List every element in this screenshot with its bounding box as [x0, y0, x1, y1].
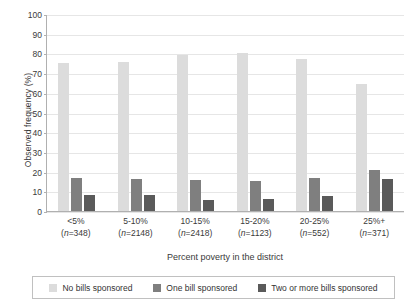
x-axis-title: Percent poverty in the district [46, 252, 404, 262]
x-tick-count: (n=2418) [165, 228, 225, 240]
bar-group [166, 15, 226, 211]
bar [71, 178, 82, 211]
bar [144, 195, 155, 211]
legend-swatch-icon [153, 284, 161, 292]
x-tick-label: 5-10%(n=2148) [106, 216, 166, 239]
x-tick-count: (n=1123) [225, 228, 285, 240]
y-tick-label: 70 [33, 69, 42, 79]
bar [382, 179, 393, 212]
legend-label: Two or more bills sponsored [271, 283, 377, 293]
legend-item[interactable]: Two or more bills sponsored [258, 283, 377, 293]
y-tick-label: 40 [33, 128, 42, 138]
bar [58, 63, 69, 211]
bar-group [47, 15, 107, 211]
bar [118, 62, 129, 211]
y-tick-label: 60 [33, 89, 42, 99]
y-tick-label: 30 [33, 148, 42, 158]
bar-group [285, 15, 345, 211]
y-tick-label: 50 [33, 109, 42, 119]
legend-swatch-icon [49, 284, 57, 292]
x-tick-category: 15-20% [225, 216, 285, 228]
bar [369, 170, 380, 211]
y-axis-title: Observed frequency (%) [23, 35, 33, 205]
bar [309, 178, 320, 211]
y-tick-label: 80 [33, 49, 42, 59]
x-tick-category: 25%+ [344, 216, 404, 228]
bar [177, 55, 188, 211]
plot-area: 1009080706050403020100 [46, 15, 404, 212]
bar-group [107, 15, 167, 211]
y-tick-mark [44, 212, 47, 213]
bar [203, 200, 214, 211]
bar-chart: Observed frequency (%) 10090807060504030… [0, 0, 420, 306]
y-tick-label: 0 [37, 207, 42, 217]
bar [84, 195, 95, 211]
x-tick-count: (n=348) [46, 228, 106, 240]
x-tick-count: (n=371) [344, 228, 404, 240]
x-tick-category: 5-10% [106, 216, 166, 228]
y-tick-label: 100 [28, 10, 42, 20]
bar-group [345, 15, 405, 211]
x-tick-count: (n=552) [285, 228, 345, 240]
legend-label: One bill sponsored [166, 283, 237, 293]
bar [131, 179, 142, 212]
legend-item[interactable]: No bills sponsored [49, 283, 132, 293]
legend-swatch-icon [258, 284, 266, 292]
bar [250, 181, 261, 211]
y-tick-label: 20 [33, 168, 42, 178]
y-tick-label: 90 [33, 30, 42, 40]
bar-groups [47, 15, 404, 211]
bar [237, 53, 248, 211]
x-tick-category: <5% [46, 216, 106, 228]
legend-item[interactable]: One bill sponsored [153, 283, 237, 293]
x-tick-label: <5%(n=348) [46, 216, 106, 239]
y-tick-label: 10 [33, 187, 42, 197]
x-tick-label: 10-15%(n=2418) [165, 216, 225, 239]
x-tick-category: 20-25% [285, 216, 345, 228]
bar [356, 84, 367, 211]
x-axis-tick-labels: <5%(n=348)5-10%(n=2148)10-15%(n=2418)15-… [46, 216, 404, 239]
bar [190, 180, 201, 211]
bar-group [226, 15, 286, 211]
bar [322, 196, 333, 211]
bar [263, 199, 274, 211]
bar [296, 59, 307, 211]
x-tick-label: 25%+(n=371) [344, 216, 404, 239]
legend-label: No bills sponsored [62, 283, 132, 293]
x-tick-label: 15-20%(n=1123) [225, 216, 285, 239]
x-tick-label: 20-25%(n=552) [285, 216, 345, 239]
x-tick-count: (n=2148) [106, 228, 166, 240]
chart-legend: No bills sponsoredOne bill sponsoredTwo … [32, 276, 395, 299]
gridline [47, 212, 404, 213]
x-tick-category: 10-15% [165, 216, 225, 228]
